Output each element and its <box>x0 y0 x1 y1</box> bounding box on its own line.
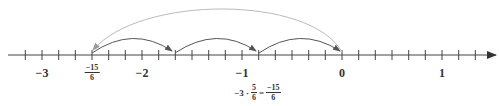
label-neg-3: −3 <box>36 66 49 81</box>
label-one: 1 <box>439 66 445 81</box>
equation-prefix: −3 · <box>234 88 249 98</box>
fraction-denominator: 6 <box>271 93 275 102</box>
label-zero: 0 <box>339 66 345 81</box>
multiplication-equation: −3 · 5 6 = −15 6 <box>234 83 283 102</box>
label-neg-2: −2 <box>136 66 149 81</box>
fraction-numerator: −15 <box>85 63 100 73</box>
label-neg-15-6: −15 6 <box>85 63 100 82</box>
label-neg-1: −1 <box>236 66 249 81</box>
fraction-result: −15 6 <box>266 83 281 102</box>
return-arc <box>93 9 342 52</box>
equals-sign: = <box>259 88 264 98</box>
fraction-five-sixths: 5 6 <box>251 83 257 102</box>
jump-arc-2 <box>175 38 256 53</box>
fraction-denominator: 6 <box>90 73 94 82</box>
fraction-denominator: 6 <box>252 93 256 102</box>
jump-arc-3 <box>259 38 340 53</box>
fraction-numerator: −15 <box>266 83 281 93</box>
fraction-numerator: 5 <box>251 83 257 93</box>
jump-arc-1 <box>92 38 172 53</box>
